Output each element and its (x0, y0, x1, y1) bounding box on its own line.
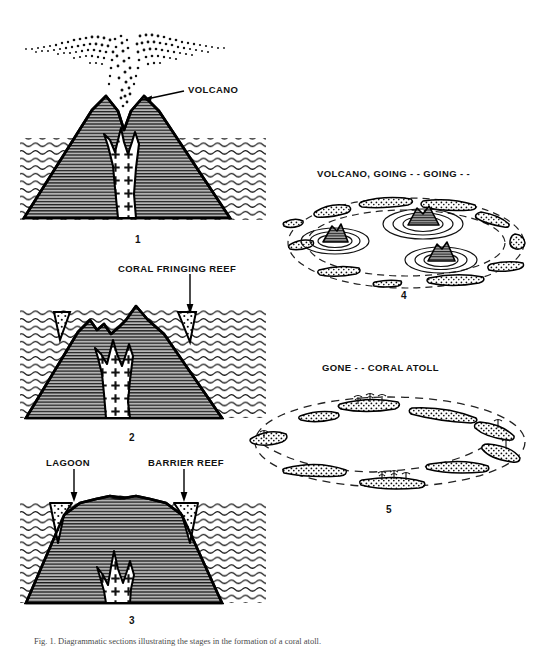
ash-plume-icon (25, 34, 225, 108)
panel-1-number: 1 (135, 234, 141, 245)
panel-3-label-barrier-reef: BARRIER REEF (148, 457, 224, 468)
panel-1-label-volcano: VOLCANO (188, 84, 238, 95)
panel-5-title: GONE - - CORAL ATOLL (322, 362, 439, 373)
lagoon-leader-arrow (71, 469, 78, 502)
panel-5: GONE - - CORAL ATOLL (240, 362, 540, 522)
panel-3-label-lagoon: LAGOON (46, 457, 90, 468)
volcano-leader-arrow (142, 91, 184, 102)
panel-1-illustration (18, 18, 268, 248)
panel-3: LAGOON BARRIER REEF 3 (18, 455, 268, 630)
panel-2-illustration (18, 262, 268, 452)
panel-4: VOLCANO, GOING - - GOING - - (275, 168, 537, 298)
figure-page: VOLCANO 1 (0, 0, 547, 648)
panel-4-number: 4 (401, 290, 407, 301)
panel-3-number: 3 (129, 615, 135, 626)
panel-4-title: VOLCANO, GOING - - GOING - - (317, 168, 470, 179)
panel-5-number: 5 (386, 504, 392, 515)
panel-3-illustration (18, 455, 268, 630)
volcanic-remnant-3 (405, 242, 477, 273)
fringing-reef-leader-arrow (187, 274, 194, 314)
panel-2: CORAL FRINGING REEF 2 (18, 262, 268, 452)
panel-2-label-fringing-reef: CORAL FRINGING REEF (118, 263, 236, 274)
panel-5-illustration (240, 382, 540, 522)
figure-caption: Fig. 1. Diagrammatic sections illustrati… (34, 636, 534, 647)
volcanic-remnant-1 (301, 224, 369, 254)
barrier-reef-leader-arrow (181, 469, 188, 502)
panel-2-number: 2 (129, 432, 135, 443)
panel-1: VOLCANO 1 (18, 18, 268, 248)
